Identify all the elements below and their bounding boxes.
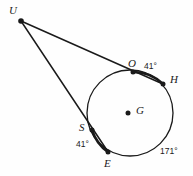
arc-measure-eh: 171° (160, 147, 178, 156)
point-o-dot (131, 70, 136, 75)
point-s-dot (90, 128, 95, 133)
arc-measure-oh: 41° (144, 62, 157, 71)
point-label-u: U (9, 5, 17, 16)
point-label-g: G (136, 105, 144, 116)
point-label-o: O (128, 58, 136, 69)
point-u-dot (18, 18, 24, 24)
geometry-diagram: U O H S E G 41° 41° 171° (0, 0, 193, 176)
point-label-s: S (79, 122, 85, 133)
point-label-e: E (104, 158, 111, 169)
point-h-dot (161, 82, 166, 87)
point-g-center-dot (126, 111, 131, 116)
point-e-dot (106, 150, 111, 155)
point-label-h: H (170, 74, 178, 85)
arc-measure-se: 41° (76, 140, 89, 149)
